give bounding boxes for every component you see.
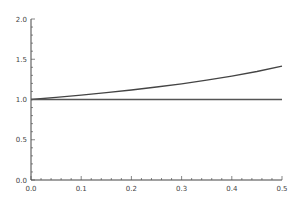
x-tick-label: 0.5 <box>276 185 287 193</box>
y-tick-label: 0.0 <box>16 177 27 185</box>
x-tick-label: 0.0 <box>25 185 36 193</box>
ticks: 0.00.10.20.30.40.50.00.51.01.52.0 <box>16 16 288 194</box>
x-tick-label: 0.1 <box>76 185 87 193</box>
x-tick-label: 0.2 <box>126 185 137 193</box>
y-tick-label: 2.0 <box>16 16 27 24</box>
y-tick-label: 1.0 <box>16 96 27 104</box>
y-tick-label: 0.5 <box>16 136 27 144</box>
x-tick-label: 0.3 <box>176 185 187 193</box>
plot-lines <box>31 66 282 99</box>
x-tick-label: 0.4 <box>226 185 238 193</box>
line-chart: 0.00.10.20.30.40.50.00.51.01.52.0 <box>0 0 303 204</box>
series-curve <box>31 66 282 99</box>
y-tick-label: 1.5 <box>16 56 27 64</box>
